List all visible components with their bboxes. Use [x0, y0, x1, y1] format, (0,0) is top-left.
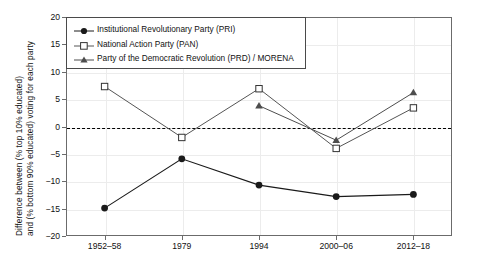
legend-marker-filled-circle-icon [73, 23, 95, 35]
legend: Institutional Revolutionary Party (PRI) … [66, 17, 306, 69]
gridline-vertical [337, 18, 338, 235]
y-axis-tick-label: 10 [0, 67, 60, 77]
legend-label-pan: National Action Party (PAN) [95, 39, 198, 49]
y-axis-tick-label: −20 [0, 231, 60, 241]
y-axis-tick-label: 0 [0, 122, 60, 132]
gridline-vertical [414, 18, 415, 235]
y-axis-tick-mark [62, 72, 66, 73]
y-axis-tick-mark [62, 209, 66, 210]
gridline-horizontal [67, 210, 451, 211]
y-axis-tick-mark [62, 99, 66, 100]
legend-label-pri: Institutional Revolutionary Party (PRI) [95, 24, 235, 34]
x-axis-tick-mark [413, 236, 414, 240]
legend-marker-open-square-icon [73, 38, 95, 50]
legend-item-pri: Institutional Revolutionary Party (PRI) [73, 22, 299, 37]
x-axis-tick-mark [105, 236, 106, 240]
gridline-horizontal [67, 155, 451, 156]
x-axis-tick-label: 2012–18 [397, 241, 430, 251]
legend-item-pan: National Action Party (PAN) [73, 37, 299, 52]
x-axis-tick-label: 2000–06 [319, 241, 352, 251]
x-axis-tick-label: 1979 [172, 241, 191, 251]
legend-label-prd: Party of the Democratic Revolution (PRD)… [95, 53, 294, 63]
y-axis-tick-label: 15 [0, 39, 60, 49]
gridline-horizontal [67, 100, 451, 101]
y-axis-tick-label: 5 [0, 94, 60, 104]
x-axis-tick-mark [259, 236, 260, 240]
gridline-horizontal [67, 73, 451, 74]
y-axis-tick-label: −5 [0, 149, 60, 159]
chart-container: Difference between (% top 10% educated) … [0, 0, 481, 269]
x-axis-tick-label: 1952–58 [88, 241, 121, 251]
x-axis-tick-mark [336, 236, 337, 240]
legend-marker-filled-triangle-icon [73, 52, 95, 64]
y-axis-tick-mark [62, 127, 66, 128]
gridline-horizontal [67, 182, 451, 183]
y-axis-tick-label: −15 [0, 204, 60, 214]
y-axis-tick-mark [62, 236, 66, 237]
x-axis-tick-label: 1994 [249, 241, 268, 251]
y-axis-tick-label: 20 [0, 12, 60, 22]
y-axis-tick-mark [62, 181, 66, 182]
y-axis-tick-label: −10 [0, 176, 60, 186]
zero-reference-line [67, 128, 451, 129]
x-axis-tick-mark [182, 236, 183, 240]
y-axis-tick-mark [62, 154, 66, 155]
legend-item-prd: Party of the Democratic Revolution (PRD)… [73, 51, 299, 66]
